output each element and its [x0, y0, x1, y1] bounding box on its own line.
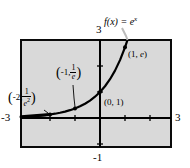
point-label-origin: (0, 1): [104, 98, 124, 107]
axis-label-bottom: -1: [93, 152, 102, 163]
point-neg1-denominator: e: [70, 72, 76, 81]
point-neg1-paren-close: ): [76, 65, 81, 80]
point-neg2-fraction: 1e2: [22, 88, 31, 108]
marker-one: [123, 45, 127, 49]
point-label-neg1: (-1,1e): [56, 64, 81, 81]
point-one-open: (1,: [128, 49, 140, 59]
point-neg1-numerator: 1: [70, 64, 76, 72]
axis-label-top: 3: [96, 24, 102, 35]
marker-neg1: [73, 106, 77, 110]
point-label-one: (1, e): [128, 50, 147, 59]
point-neg1-fraction: 1e: [70, 64, 76, 81]
graph-overlay: [0, 0, 190, 168]
axis-label-right: 3: [175, 112, 181, 123]
point-neg2-x: -2,: [13, 92, 23, 102]
leader-line-neg1: [73, 85, 75, 107]
function-label-exponent: x: [134, 15, 137, 23]
function-label: f(x) = ex: [104, 16, 137, 27]
marker-neg2: [48, 112, 52, 116]
leader-line-neg2: [44, 110, 48, 113]
point-neg2-den-exponent: 2: [27, 97, 30, 103]
curve-left-tail: [21, 115, 50, 117]
marker-origin: [98, 90, 102, 94]
point-neg1-x: -1,: [61, 67, 71, 77]
point-neg2-paren-close: ): [31, 90, 36, 105]
point-one-close: ): [144, 49, 147, 59]
axis-label-left: -3: [1, 112, 10, 123]
leader-line-function: [122, 28, 128, 40]
point-neg2-denominator: e2: [22, 96, 31, 108]
function-label-eq: ) =: [115, 16, 130, 27]
exponential-function-figure: f(x) = ex 3 3 -3 -1 (-2,1e2) (-1,1e) (0,…: [0, 0, 190, 168]
point-label-neg2: (-2,1e2): [8, 88, 36, 108]
point-neg2-numerator: 1: [22, 88, 31, 96]
